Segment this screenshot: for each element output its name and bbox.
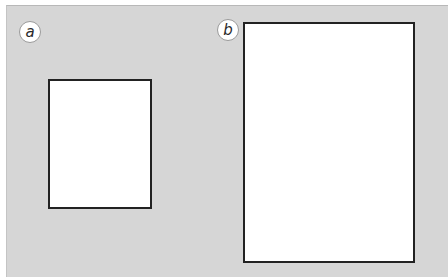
label-b-text: b bbox=[223, 23, 233, 38]
label-badge-b: b bbox=[217, 19, 239, 41]
rectangle-a bbox=[48, 79, 152, 209]
rectangle-b bbox=[243, 22, 415, 263]
label-badge-a: a bbox=[19, 21, 41, 43]
label-a-text: a bbox=[25, 25, 34, 40]
